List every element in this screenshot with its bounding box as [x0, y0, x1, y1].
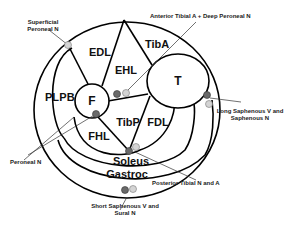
tibia-label: T [174, 74, 182, 88]
pb-label: PB [59, 91, 74, 103]
peroneal-label: Peroneal N [10, 159, 41, 165]
saphenous-nerve-dot [206, 101, 213, 108]
posterior-tibial-nerve-dot [133, 144, 140, 151]
pl-label: PL [45, 91, 59, 103]
superficial-peroneal-label-line1: Superficial [28, 19, 59, 25]
superficial-to-fibula [68, 45, 88, 84]
superficial-peroneal-nerve-dot [65, 42, 72, 49]
anterior-tibial-label: Anterior Tibial A + Deep Peroneal N [150, 13, 251, 19]
leader-long-saphenous [210, 98, 241, 102]
long-saphenous-label-line1: Long Saphenous V and [217, 108, 284, 114]
posterior-tibial-artery-dot [126, 148, 133, 155]
leg-cross-section-diagram: F T EDL EHL TibA PL PB FHL TibP FDL Sole… [0, 0, 305, 225]
anterior-tibial-artery-dot [114, 91, 121, 98]
short-saphenous-label-line2: Sural N [114, 210, 135, 216]
fdl-label: FDL [147, 116, 169, 128]
fibula-label: F [88, 94, 95, 108]
ehl-label: EHL [115, 64, 137, 76]
sural-nerve-dot [130, 186, 137, 193]
short-saphenous-vein-dot [122, 187, 129, 194]
gastroc-label: Gastroc [106, 168, 148, 180]
peroneal-nerve-dot [93, 111, 100, 118]
deep-peroneal-nerve-dot [123, 90, 130, 97]
long-saphenous-label-line2: Saphenous N [231, 115, 269, 121]
leader-peroneal-2 [24, 117, 74, 160]
short-saphenous-label-line1: Short Saphenous V and [91, 203, 159, 209]
soleus-label: Soleus [113, 155, 149, 167]
long-saphenous-vein-dot [204, 92, 211, 99]
tiba-label: TibA [145, 38, 169, 50]
tibp-label: TibP [116, 116, 140, 128]
edl-label: EDL [89, 46, 111, 58]
superficial-peroneal-label-line2: Peroneal N [27, 26, 58, 32]
fhl-label: FHL [88, 130, 110, 142]
posterior-tibial-label: Posterior Tibial N and A [152, 180, 220, 186]
